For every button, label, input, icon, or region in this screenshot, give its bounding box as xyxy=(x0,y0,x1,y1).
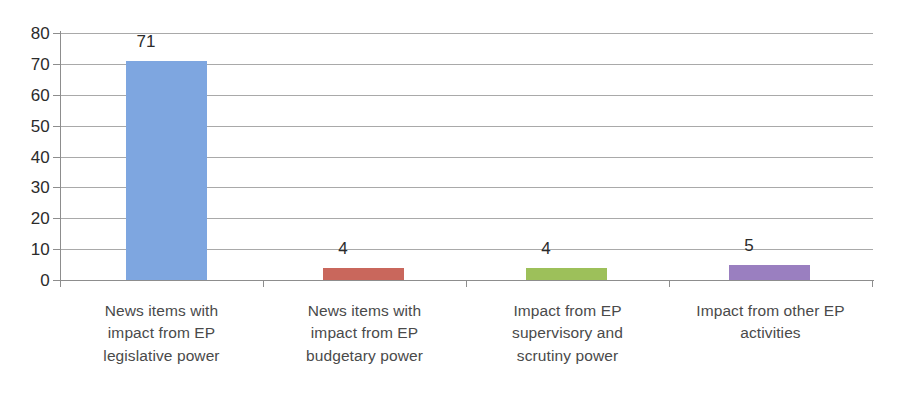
bar-3 xyxy=(729,265,810,280)
bar-2 xyxy=(526,268,607,280)
y-tick-40 xyxy=(53,157,61,158)
x-axis-line xyxy=(60,280,874,281)
value-label-3: 5 xyxy=(689,237,809,254)
category-label-2-line-0: Impact from EP xyxy=(466,300,669,322)
value-label-2: 4 xyxy=(486,240,606,257)
bar-chart: 80 70 60 50 40 30 20 10 0 71 4 4 5 News … xyxy=(0,0,897,403)
y-tick-60 xyxy=(53,95,61,96)
y-axis-label-70: 70 xyxy=(4,56,50,73)
category-label-3: Impact from other EP activities xyxy=(664,300,877,345)
category-label-1-line-2: budgetary power xyxy=(263,345,466,367)
y-axis-label-60: 60 xyxy=(4,87,50,104)
category-label-0-line-0: News items with xyxy=(60,300,263,322)
y-tick-50 xyxy=(53,126,61,127)
y-tick-20 xyxy=(53,218,61,219)
category-tick-1 xyxy=(263,280,264,287)
category-label-3-line-0: Impact from other EP xyxy=(664,300,877,322)
y-axis-label-50: 50 xyxy=(4,118,50,135)
category-tick-4 xyxy=(872,280,873,287)
value-label-1: 4 xyxy=(283,240,403,257)
y-tick-80 xyxy=(53,33,61,34)
category-label-2-line-1: supervisory and xyxy=(466,322,669,344)
value-label-0: 71 xyxy=(86,33,206,50)
y-axis-label-30: 30 xyxy=(4,179,50,196)
bar-1 xyxy=(323,268,404,280)
category-label-0: News items with impact from EP legislati… xyxy=(60,300,263,367)
category-tick-3 xyxy=(669,280,670,287)
category-label-2-line-2: scrutiny power xyxy=(466,345,669,367)
y-axis-label-0: 0 xyxy=(4,272,50,289)
category-label-0-line-1: impact from EP xyxy=(60,322,263,344)
y-tick-10 xyxy=(53,249,61,250)
category-label-1-line-1: impact from EP xyxy=(263,322,466,344)
y-tick-70 xyxy=(53,64,61,65)
y-axis-label-40: 40 xyxy=(4,149,50,166)
category-label-1: News items with impact from EP budgetary… xyxy=(263,300,466,367)
category-tick-0 xyxy=(60,280,61,287)
y-axis-label-20: 20 xyxy=(4,210,50,227)
category-label-3-line-1: activities xyxy=(664,322,877,344)
y-axis-label-10: 10 xyxy=(4,241,50,258)
category-tick-2 xyxy=(466,280,467,287)
category-label-0-line-2: legislative power xyxy=(60,345,263,367)
category-label-1-line-0: News items with xyxy=(263,300,466,322)
bar-0 xyxy=(126,61,207,280)
y-axis-labels: 80 70 60 50 40 30 20 10 0 xyxy=(0,0,50,403)
y-tick-30 xyxy=(53,187,61,188)
y-axis-label-80: 80 xyxy=(4,25,50,42)
category-label-2: Impact from EP supervisory and scrutiny … xyxy=(466,300,669,367)
